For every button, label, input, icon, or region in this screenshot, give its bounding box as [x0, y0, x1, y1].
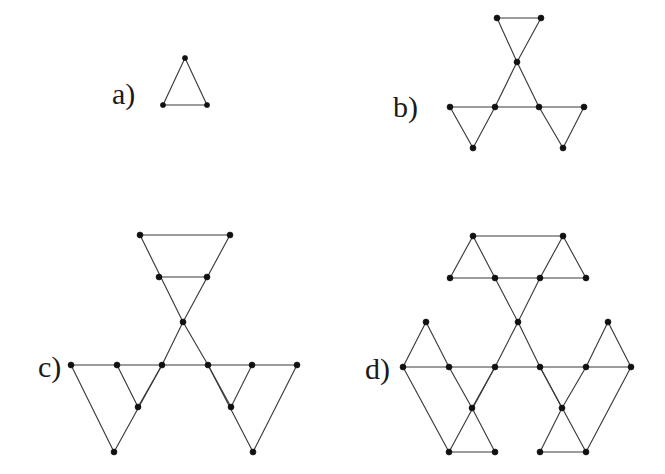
lattice-node: [111, 449, 117, 455]
panel-label-d: d): [365, 352, 390, 386]
lattice-node: [492, 104, 498, 110]
lattice-node: [537, 275, 543, 281]
lattice-node: [423, 319, 429, 325]
lattice-node: [180, 319, 186, 325]
lattice-node: [160, 102, 165, 107]
lattice-node: [227, 232, 233, 238]
lattice-node: [581, 104, 587, 110]
lattice-node: [446, 449, 452, 455]
lattice-node: [514, 59, 520, 65]
lattice-node: [492, 449, 498, 455]
lattice-node: [204, 274, 210, 280]
lattice-node: [447, 275, 453, 281]
lattice-node: [114, 362, 120, 368]
figure-container: a)b)c)d): [0, 0, 665, 474]
lattice-node: [605, 319, 611, 325]
lattice-node: [628, 364, 634, 370]
panel-label-b: b): [393, 90, 418, 124]
lattice-node: [68, 362, 74, 368]
lattice-node: [249, 362, 255, 368]
lattice-node: [583, 449, 589, 455]
lattice-node: [294, 362, 300, 368]
lattice-node: [583, 275, 589, 281]
lattice-node: [583, 364, 589, 370]
lattice-node: [204, 102, 209, 107]
lattice-node: [228, 404, 234, 410]
lattice-node: [494, 15, 500, 21]
lattice-node: [470, 233, 476, 239]
lattice-node: [537, 364, 543, 370]
lattice-node: [182, 55, 187, 60]
lattice-node: [536, 104, 542, 110]
lattice-node: [135, 404, 141, 410]
lattice-node: [492, 364, 498, 370]
lattice-node: [560, 233, 566, 239]
lattice-node: [400, 364, 406, 370]
lattice-node: [250, 449, 256, 455]
lattice-node: [159, 362, 165, 368]
lattice-node: [560, 145, 566, 151]
lattice-node: [446, 364, 452, 370]
lattice-node: [205, 362, 211, 368]
panel-label-a: a): [112, 77, 135, 111]
lattice-node: [470, 145, 476, 151]
panel-label-c: c): [38, 350, 61, 384]
lattice-node: [447, 104, 453, 110]
lattice-node: [469, 405, 475, 411]
lattice-node: [492, 275, 498, 281]
lattice-node: [559, 405, 565, 411]
lattice-node: [538, 15, 544, 21]
lattice-node: [515, 319, 521, 325]
lattice-node: [137, 232, 143, 238]
lattice-node: [537, 449, 543, 455]
lattice-figure: a)b)c)d): [0, 0, 665, 474]
lattice-node: [156, 274, 162, 280]
